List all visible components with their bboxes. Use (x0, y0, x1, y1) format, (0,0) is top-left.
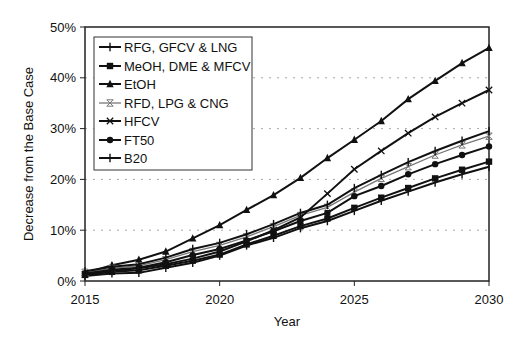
circle-marker-icon (324, 210, 330, 216)
circle-marker-icon (107, 137, 113, 143)
x-marker-icon (405, 130, 411, 136)
legend-label: EtOH (124, 77, 156, 92)
square-marker-icon (459, 167, 465, 173)
circle-marker-icon (270, 228, 276, 234)
square-marker-icon (405, 185, 411, 191)
circle-marker-icon (405, 171, 411, 177)
triangle-marker-icon (351, 136, 358, 143)
legend-label: RFD, LPG & CNG (124, 96, 229, 111)
triangle-marker-icon (405, 95, 412, 102)
square-marker-icon (432, 175, 438, 181)
triangle-marker-icon (485, 44, 492, 51)
x-tick-label: 2015 (71, 292, 100, 307)
triangle-marker-icon (324, 154, 331, 161)
circle-marker-icon (432, 161, 438, 167)
y-tick-label: 0% (57, 274, 76, 289)
circle-marker-icon (459, 152, 465, 158)
legend-label: B20 (124, 151, 147, 166)
line-chart: 0%10%20%30%40%50% 2015202020252030 RFG, … (0, 0, 517, 343)
x-tick-label: 2025 (340, 292, 369, 307)
legend-label: FT50 (124, 133, 154, 148)
x-marker-icon (432, 114, 438, 120)
square-marker-icon (486, 158, 492, 164)
legend: RFG, GFCV & LNGMeOH, DME & MFCVEtOHRFD, … (94, 37, 252, 170)
circle-marker-icon (378, 183, 384, 189)
circle-marker-icon (351, 193, 357, 199)
x-axis: 2015202020252030 (71, 281, 504, 307)
y-tick-label: 30% (50, 121, 76, 136)
y-tick-label: 40% (50, 70, 76, 85)
square-marker-icon (107, 63, 113, 69)
x-marker-icon (378, 148, 384, 154)
circle-marker-icon (486, 143, 492, 149)
y-axis-title: Decrease from the Base Case (21, 67, 36, 241)
y-tick-label: 20% (50, 172, 76, 187)
x-marker-icon (324, 190, 330, 196)
y-tick-label: 50% (50, 20, 76, 35)
x-tick-label: 2030 (475, 292, 504, 307)
square-marker-icon (351, 205, 357, 211)
x-axis-title: Year (274, 314, 301, 329)
square-marker-icon (324, 215, 330, 221)
legend-label: MeOH, DME & MFCV (124, 59, 251, 74)
legend-label: HFCV (124, 114, 160, 129)
circle-marker-icon (297, 218, 303, 224)
y-axis: 0%10%20%30%40%50% (50, 20, 85, 289)
legend-label: RFG, GFCV & LNG (124, 40, 237, 55)
square-marker-icon (378, 194, 384, 200)
y-tick-label: 10% (50, 223, 76, 238)
x-tick-label: 2020 (205, 292, 234, 307)
x-marker-icon (351, 166, 357, 172)
